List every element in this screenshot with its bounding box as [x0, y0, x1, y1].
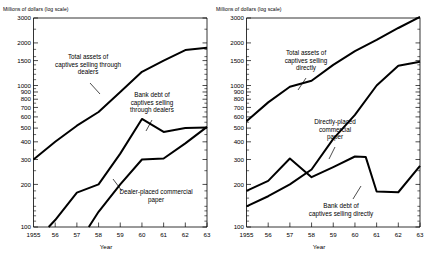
y-axis-title-right: Millions of dollars (log scale)	[216, 6, 282, 12]
x-tick-label: 63	[417, 231, 424, 238]
x-tick-label: 58	[95, 231, 102, 238]
series-line-1	[49, 119, 207, 227]
x-tick-label: 1955	[240, 231, 254, 238]
series-annotation-2: Bank debt ofcaptives selling directly	[309, 202, 374, 218]
x-tick-label: 59	[330, 231, 337, 238]
y-tick-label: 1500	[17, 57, 31, 64]
chart-svg-right: Millions of dollars (log scale) 30002000…	[213, 0, 426, 254]
series-annotation-2: Dealer-placed commercialpaper	[119, 188, 192, 204]
y-tick-label: 500	[21, 124, 32, 131]
y-tick-label: 300	[21, 156, 32, 163]
x-tick-label: 56	[52, 231, 59, 238]
y-tick-label: 2000	[230, 39, 244, 46]
x-tick-label: 59	[117, 231, 124, 238]
plot-frame-left	[34, 18, 208, 227]
y-axis-title-left: Millions of dollars (log scale)	[3, 6, 69, 12]
x-tick-label: 58	[308, 231, 315, 238]
y-tick-label: 800	[234, 95, 245, 102]
series-leader-2	[353, 186, 361, 199]
y-tick-label: 900	[234, 88, 245, 95]
series-annotation-1: Bank debt ofcaptives sellingthrough deal…	[130, 91, 174, 114]
data-curves-left	[34, 48, 208, 227]
x-axis-ticks-right: 19555657585960616263	[240, 223, 424, 238]
series-annotation-0: Total assets ofcaptives selling throughd…	[55, 53, 121, 75]
x-tick-label: 62	[395, 231, 402, 238]
x-tick-label: 60	[351, 231, 358, 238]
axis-title-group-right: Millions of dollars (log scale)	[216, 6, 282, 12]
y-tick-label: 900	[21, 88, 32, 95]
y-tick-label: 500	[234, 124, 245, 131]
chart-panel-left: Millions of dollars (log scale) 30002000…	[0, 0, 213, 254]
y-tick-label: 200	[234, 181, 245, 188]
x-tick-label: 57	[73, 231, 80, 238]
x-tick-label: 60	[138, 231, 145, 238]
x-axis-title-left: Year	[100, 243, 113, 250]
series-line-2	[247, 156, 421, 192]
y-tick-label: 1500	[230, 57, 244, 64]
y-tick-label: 3000	[230, 14, 244, 21]
series-line-2	[89, 127, 207, 227]
x-tick-label: 63	[204, 231, 211, 238]
y-tick-label: 400	[21, 138, 32, 145]
chart-svg-left: Millions of dollars (log scale) 30002000…	[0, 0, 213, 254]
y-tick-label: 3000	[17, 14, 31, 21]
x-axis-title-right: Year	[313, 243, 326, 250]
series-leader-1	[329, 147, 335, 159]
y-tick-label: 100	[234, 223, 245, 230]
y-tick-label: 100	[21, 223, 32, 230]
y-tick-label: 300	[234, 156, 245, 163]
x-tick-label: 61	[373, 231, 380, 238]
y-tick-label: 600	[234, 113, 245, 120]
data-curves-right	[247, 17, 421, 206]
axis-title-group-left: Millions of dollars (log scale)	[3, 6, 69, 12]
plot-border	[34, 18, 208, 227]
y-tick-label: 700	[21, 104, 32, 111]
y-tick-label: 600	[21, 113, 32, 120]
y-tick-label: 2000	[17, 39, 31, 46]
y-tick-label: 700	[234, 104, 245, 111]
y-axis-ticks-left: 3000200015001000900800700600500400300200…	[17, 14, 207, 230]
x-tick-label: 62	[182, 231, 189, 238]
chart-panel-right: Millions of dollars (log scale) 30002000…	[213, 0, 426, 254]
y-tick-label: 400	[234, 138, 245, 145]
x-tick-label: 56	[265, 231, 272, 238]
figure-root: Millions of dollars (log scale) 30002000…	[0, 0, 427, 254]
x-tick-label: 1955	[27, 231, 41, 238]
series-annotation-1: Directly-placedcommercialpaper	[314, 118, 356, 141]
x-tick-label: 61	[160, 231, 167, 238]
series-leader-0	[90, 83, 100, 94]
x-tick-label: 57	[286, 231, 293, 238]
x-axis-ticks-left: 19555657585960616263	[27, 223, 211, 238]
y-tick-label: 200	[21, 181, 32, 188]
series-annotations-right: Total assets ofcaptives sellingdirectlyD…	[285, 49, 374, 218]
series-annotation-0: Total assets ofcaptives sellingdirectly	[285, 49, 328, 72]
y-tick-label: 800	[21, 95, 32, 102]
